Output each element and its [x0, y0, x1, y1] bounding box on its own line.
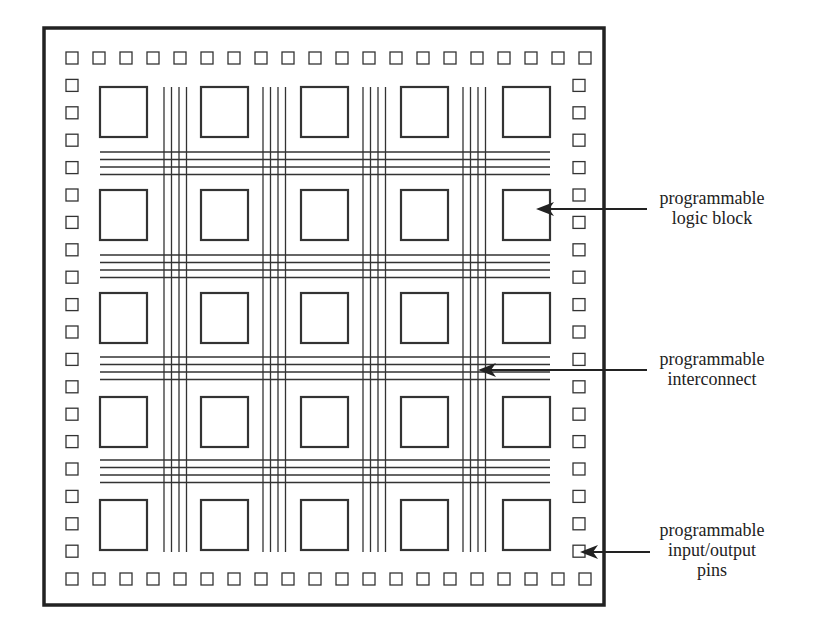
io-pin [573, 436, 585, 448]
logic-block [201, 190, 248, 240]
io-pin [282, 573, 294, 585]
io-pin [336, 52, 348, 64]
io-pin [525, 52, 537, 64]
io-pin [573, 79, 585, 91]
io-pin [255, 52, 267, 64]
label-programmable-logic-block: programmable logic block [622, 188, 802, 228]
logic-block [201, 500, 248, 550]
logic-block [100, 87, 147, 137]
label-line: programmable [622, 349, 802, 369]
io-pin [66, 545, 78, 557]
logic-block [503, 500, 550, 550]
io-pin [66, 271, 78, 283]
io-pin [444, 573, 456, 585]
logic-block [503, 87, 550, 137]
io-pin [66, 408, 78, 420]
io-pin [66, 162, 78, 174]
io-pin [255, 573, 267, 585]
logic-block [401, 500, 448, 550]
label-programmable-io-pins: programmable input/output pins [622, 520, 802, 580]
io-pin [417, 573, 429, 585]
io-pin [93, 573, 105, 585]
io-pin [66, 573, 78, 585]
io-pin [573, 490, 585, 502]
io-pin [228, 573, 240, 585]
io-pin [66, 436, 78, 448]
io-pin [573, 326, 585, 338]
io-pin [66, 79, 78, 91]
io-pin [573, 162, 585, 174]
io-pin [573, 271, 585, 283]
io-pin [573, 408, 585, 420]
io-pin [471, 52, 483, 64]
io-pin [147, 52, 159, 64]
io-pin [66, 52, 78, 64]
io-pin [336, 573, 348, 585]
io-pin [174, 52, 186, 64]
io-pin [66, 189, 78, 201]
io-pin [573, 107, 585, 119]
logic-block [503, 397, 550, 447]
io-pin [66, 299, 78, 311]
logic-block [201, 397, 248, 447]
logic-block [401, 190, 448, 240]
io-pin [471, 573, 483, 585]
io-pin [417, 52, 429, 64]
logic-block [301, 397, 348, 447]
io-pin [201, 52, 213, 64]
io-pin [120, 52, 132, 64]
io-pin [579, 52, 591, 64]
logic-block [401, 397, 448, 447]
logic-block [100, 293, 147, 343]
logic-block [503, 190, 550, 240]
logic-block [401, 293, 448, 343]
io-pin [120, 573, 132, 585]
logic-block [201, 87, 248, 137]
label-line: logic block [622, 208, 802, 228]
io-pin [66, 244, 78, 256]
io-pin [573, 134, 585, 146]
io-pin [66, 216, 78, 228]
io-pin [66, 107, 78, 119]
label-line: input/output [622, 540, 802, 560]
io-pin [573, 381, 585, 393]
label-line: programmable [622, 520, 802, 540]
label-line: programmable [622, 188, 802, 208]
logic-block [100, 500, 147, 550]
io-pin [498, 52, 510, 64]
io-pin [390, 52, 402, 64]
logic-block [201, 293, 248, 343]
io-pin [174, 573, 186, 585]
logic-block [503, 293, 550, 343]
io-pin [282, 52, 294, 64]
logic-block-grid [100, 87, 550, 550]
logic-block [301, 500, 348, 550]
io-pin [66, 134, 78, 146]
io-pin [573, 463, 585, 475]
label-line: interconnect [622, 369, 802, 389]
io-pin [579, 573, 591, 585]
io-pin [66, 490, 78, 502]
io-pin [552, 573, 564, 585]
logic-block [301, 87, 348, 137]
io-pin [309, 573, 321, 585]
label-programmable-interconnect: programmable interconnect [622, 349, 802, 389]
io-pin [573, 299, 585, 311]
io-pin [552, 52, 564, 64]
label-line: pins [622, 560, 802, 580]
io-pin [573, 189, 585, 201]
io-pin [573, 518, 585, 530]
io-pin [444, 52, 456, 64]
io-pin [363, 573, 375, 585]
io-pin [573, 353, 585, 365]
logic-block [301, 293, 348, 343]
io-pin [573, 244, 585, 256]
io-pin [363, 52, 375, 64]
io-pin [390, 573, 402, 585]
io-pin [66, 463, 78, 475]
io-pin [66, 326, 78, 338]
io-pin [66, 518, 78, 530]
io-pin [525, 573, 537, 585]
logic-block [401, 87, 448, 137]
logic-block [100, 397, 147, 447]
